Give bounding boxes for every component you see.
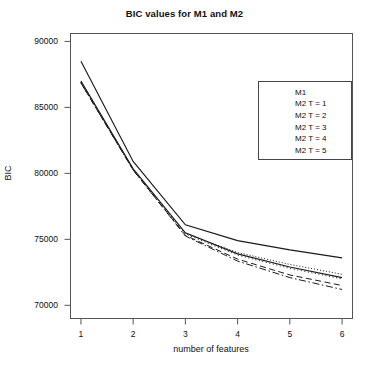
y-tick-label: 80000	[8, 168, 58, 178]
x-tick-label: 4	[235, 329, 240, 339]
y-tick-label: 90000	[8, 36, 58, 46]
x-tick-label: 1	[79, 329, 84, 339]
x-tick-label: 5	[287, 329, 292, 339]
legend-item-label: M2 T = 2	[295, 111, 327, 120]
y-tick-label: 75000	[8, 234, 58, 244]
y-tick-label: 85000	[8, 102, 58, 112]
legend-item-label: M2 T = 4	[295, 134, 327, 143]
x-tick-label: 2	[131, 329, 136, 339]
x-tick-label: 6	[340, 329, 345, 339]
x-tick-label: 3	[183, 329, 188, 339]
legend-item-label: M2 T = 3	[295, 123, 327, 132]
chart-plot-area	[0, 0, 369, 368]
legend-item-label: M2 T = 1	[295, 99, 327, 108]
plot-frame	[71, 34, 353, 319]
y-axis-label: BIC	[3, 143, 13, 203]
legend-item-label: M2 T = 5	[295, 146, 327, 155]
legend-item-label: M1	[295, 88, 306, 97]
x-axis-label: number of features	[70, 344, 352, 354]
bic-line-chart: BIC values for M1 and M2 700007500080000…	[0, 0, 369, 368]
y-tick-label: 70000	[8, 300, 58, 310]
